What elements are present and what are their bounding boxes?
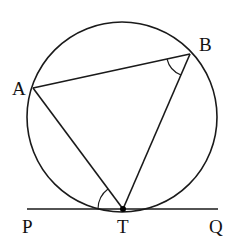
label-a: A bbox=[12, 78, 26, 99]
angle-mark-atp bbox=[98, 189, 108, 209]
angle-mark-abt bbox=[167, 59, 181, 75]
label-b: B bbox=[199, 34, 212, 55]
chord-ab bbox=[33, 54, 190, 88]
label-q: Q bbox=[209, 216, 223, 237]
label-t: T bbox=[117, 216, 129, 237]
label-p: P bbox=[22, 216, 33, 237]
point-t-dot bbox=[120, 206, 126, 212]
chord-at bbox=[33, 88, 123, 209]
diagram-canvas: A B P T Q bbox=[0, 0, 241, 244]
chord-bt bbox=[123, 54, 190, 209]
